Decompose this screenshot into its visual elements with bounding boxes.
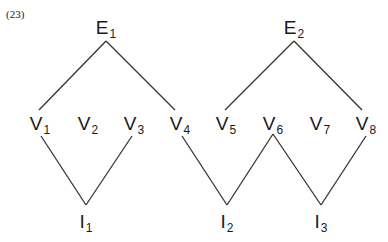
edge-v6-i2 <box>227 134 273 205</box>
edge-v4-i2 <box>182 136 227 205</box>
node-v1: V1 <box>30 114 50 136</box>
edge-v8-i3 <box>321 136 366 205</box>
edge-e2-v5 <box>225 41 294 110</box>
node-v3: V3 <box>124 114 144 136</box>
node-v7: V7 <box>310 114 330 136</box>
edge-e1-v4 <box>106 41 175 110</box>
node-v2: V2 <box>78 114 98 136</box>
node-v4: V4 <box>170 114 190 136</box>
edge-e1-v1 <box>39 41 106 110</box>
node-i1: I1 <box>80 212 93 234</box>
edge-v3-i1 <box>86 136 132 205</box>
edge-e2-v8 <box>294 41 362 110</box>
edge-v6-i3 <box>273 134 321 205</box>
node-v5: V5 <box>216 114 236 136</box>
edge-v1-i1 <box>41 136 86 205</box>
node-i2: I2 <box>221 212 234 234</box>
node-e2: E2 <box>284 18 304 40</box>
node-i3: I3 <box>315 212 328 234</box>
node-v8: V8 <box>356 114 376 136</box>
bipartite-hierarchy-diagram: (23) E1 E2 V1 V2 V3 V4 V5 V6 V7 V8 I1 I2… <box>0 0 388 242</box>
node-v6: V6 <box>263 114 283 136</box>
node-e1: E1 <box>96 18 116 40</box>
